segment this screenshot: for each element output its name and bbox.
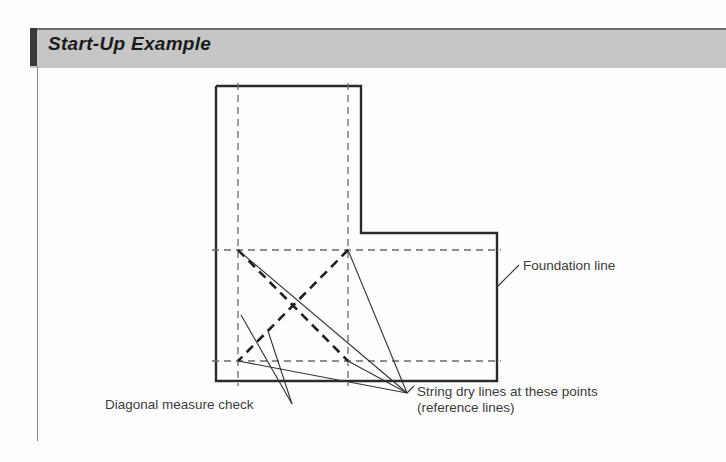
label-foundation-line: Foundation line	[523, 258, 615, 273]
leader-diagonal-check-1	[241, 315, 292, 404]
label-string-dry-lines-line2: (reference lines)	[417, 400, 515, 415]
leader-foundation-line	[497, 265, 519, 287]
label-string-dry-lines-line1: String dry lines at these points	[417, 384, 598, 399]
leader-string-dry-barb	[407, 386, 414, 393]
leader-string-dry-3	[238, 361, 407, 393]
foundation-diagram: Foundation line Diagonal measure check S…	[0, 0, 726, 462]
leader-string-dry-4	[348, 361, 407, 393]
leader-string-dry-2	[348, 250, 407, 393]
label-diagonal-measure-check: Diagonal measure check	[105, 397, 254, 412]
document-page: Start-Up Example Foundation line Diagona…	[0, 0, 726, 462]
foundation-outline	[216, 86, 497, 381]
leader-string-dry-1	[238, 250, 407, 393]
